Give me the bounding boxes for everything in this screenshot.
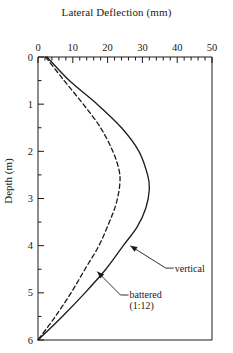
y-tick-label: 5 [28,287,33,298]
annotation-arrowhead [130,246,137,252]
annotation-label: (1:12) [129,300,153,312]
x-axis-ticks [38,57,212,63]
y-axis-tick-labels: 0123456 [28,52,34,346]
x-tick-label: 10 [68,42,79,53]
y-tick-label: 6 [28,335,33,346]
x-tick-label: 20 [102,42,113,53]
x-tick-label: 30 [137,42,148,53]
y-tick-label: 2 [28,146,33,157]
chart-annotations: verticalbattered(1:12) [97,246,205,313]
x-tick-label: 50 [207,42,218,53]
chart-canvas: 01020304050 0123456 verticalbattered(1:1… [0,0,233,353]
x-tick-label: 0 [35,42,40,53]
series-line-battered [38,57,120,340]
y-tick-label: 1 [28,99,33,110]
annotation-label: battered [129,289,161,300]
y-tick-label: 3 [28,193,33,204]
annotation-label: vertical [175,263,205,274]
chart-root: Lateral Deflection (mm) Depth (m) 010203… [0,0,233,353]
x-tick-label: 40 [172,42,183,53]
plot-area: 01020304050 0123456 verticalbattered(1:1… [0,0,233,353]
y-tick-label: 4 [28,240,34,251]
annotation-leader-line [130,246,174,268]
y-axis-ticks [38,57,44,340]
y-tick-label: 0 [28,52,33,63]
x-axis-tick-labels: 01020304050 [35,42,217,53]
axes [38,57,212,340]
